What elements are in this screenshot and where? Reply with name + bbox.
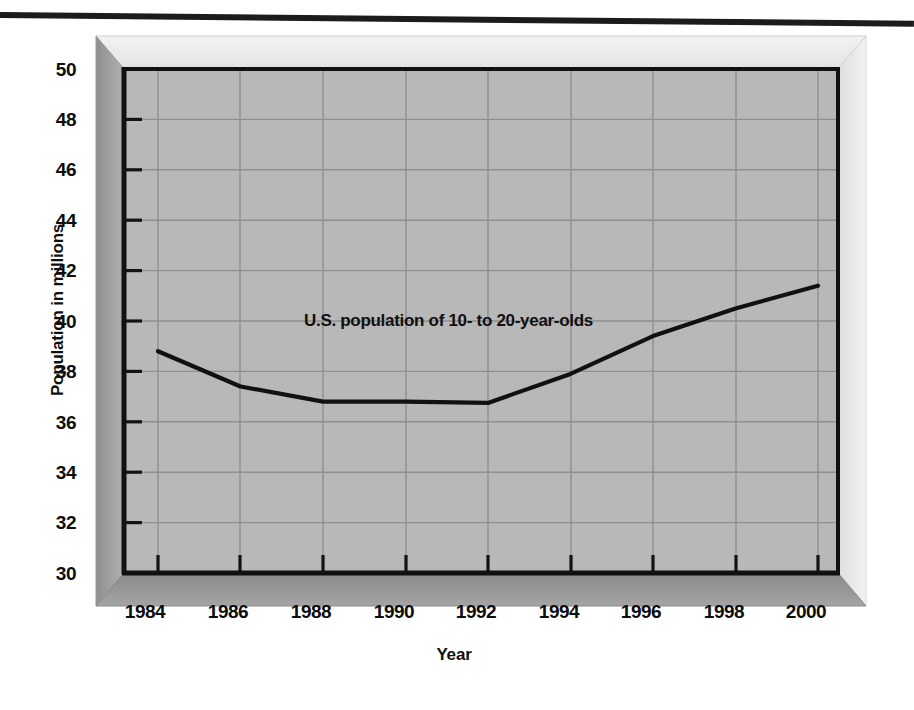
- y-tick-label: 32: [30, 512, 76, 534]
- x-tick-label: 1986: [188, 601, 268, 623]
- series-annotation: U.S. population of 10- to 20-year-olds: [304, 311, 593, 331]
- y-axis-title: Population in millions: [48, 180, 68, 440]
- frame-top-face: [96, 36, 866, 69]
- frame-right-wall: [838, 36, 866, 606]
- x-tick-label: 1996: [601, 601, 681, 623]
- y-tick-label: 46: [30, 159, 76, 181]
- y-tick-label: 48: [30, 109, 76, 131]
- x-axis-title: Year: [0, 645, 908, 665]
- x-tick-label: 1988: [271, 601, 351, 623]
- x-tick-label: 1998: [684, 601, 764, 623]
- y-tick-label: 34: [30, 462, 76, 484]
- y-tick-label: 50: [30, 59, 76, 81]
- x-tick-label: 1994: [519, 601, 599, 623]
- frame-left-wall: [96, 36, 124, 606]
- x-tick-label: 1992: [436, 601, 516, 623]
- x-tick-label: 1990: [354, 601, 434, 623]
- y-tick-label: 30: [30, 563, 76, 585]
- x-tick-label: 2000: [766, 601, 846, 623]
- x-tick-label: 1984: [105, 601, 185, 623]
